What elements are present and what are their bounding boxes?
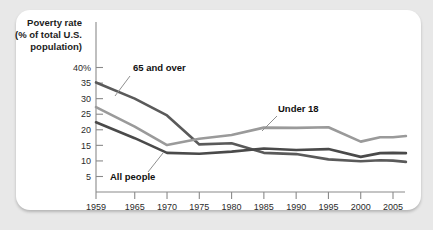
series-label-all-people: All people: [110, 171, 155, 182]
y-tick-label: 10: [81, 156, 91, 166]
x-tick-label: 2005: [383, 202, 403, 212]
x-tick-label: 1990: [286, 202, 306, 212]
x-axis: 1959196519701975198019851990199520002005: [86, 192, 405, 212]
x-tick-label: 1959: [86, 202, 106, 212]
axis-title-line-1: Poverty rate: [27, 17, 82, 28]
axis-title-line-3: population): [30, 41, 82, 52]
x-tick-label: 1975: [189, 202, 209, 212]
data-series-group: [96, 82, 406, 161]
series-line-under-18: [96, 107, 406, 145]
x-tick-label: 2000: [351, 202, 371, 212]
x-tick-label: 1995: [318, 202, 338, 212]
y-tick-label: 20: [81, 125, 91, 135]
leader-line-all-people: [148, 153, 163, 172]
figure-root: Poverty rate (% of total U.S. population…: [0, 0, 433, 230]
x-tick-label: 1985: [254, 202, 274, 212]
series-label-under-18: Under 18: [278, 103, 319, 114]
x-tick-group: 1959196519701975198019851990199520002005: [86, 192, 403, 212]
y-tick-label: 40%: [73, 63, 91, 73]
x-tick-label: 1980: [222, 202, 242, 212]
y-tick-label: 30: [81, 94, 91, 104]
annotation-group: 65 and overUnder 18All people: [110, 62, 319, 182]
y-tick-label: 35: [81, 78, 91, 88]
axis-title: Poverty rate (% of total U.S. population…: [15, 17, 82, 52]
y-tick-label: 25: [81, 109, 91, 119]
axis-title-line-2: (% of total U.S.: [15, 29, 82, 40]
series-label-65-and-over: 65 and over: [133, 62, 186, 73]
x-tick-label: 1970: [157, 202, 177, 212]
series-line-all-people: [96, 122, 406, 157]
poverty-rate-line-chart: Poverty rate (% of total U.S. population…: [0, 0, 433, 230]
x-tick-label: 1965: [125, 202, 145, 212]
y-tick-label: 15: [81, 141, 91, 151]
y-tick-label: 5: [86, 172, 91, 182]
